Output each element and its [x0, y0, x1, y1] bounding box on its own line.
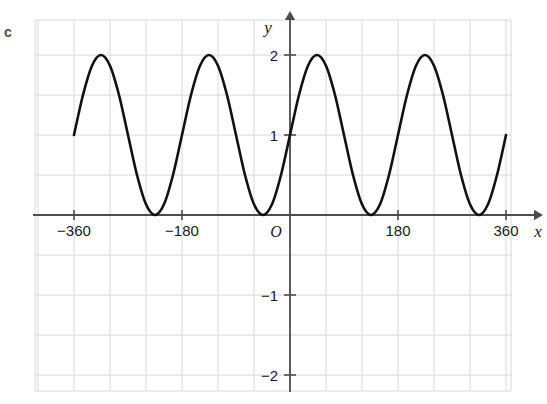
- graph-figure: c −360−18018036021−1−2Oyx: [0, 0, 547, 404]
- x-tick-label: −360: [57, 222, 91, 239]
- y-tick-label: −1: [261, 287, 278, 304]
- y-tick-label: 1: [270, 127, 278, 144]
- x-tick-label: 360: [493, 222, 518, 239]
- y-tick-label: 2: [270, 47, 278, 64]
- origin-label: O: [270, 223, 282, 240]
- trig-graph-svg: −360−18018036021−1−2Oyx: [0, 0, 547, 404]
- x-axis-arrowhead: [534, 210, 543, 220]
- gridlines: [35, 20, 511, 391]
- y-axis-label: y: [262, 18, 272, 37]
- y-tick-label: −2: [261, 367, 278, 384]
- x-tick-label: 180: [385, 222, 410, 239]
- x-axis-label: x: [533, 222, 542, 241]
- x-tick-label: −180: [165, 222, 199, 239]
- y-axis-arrowhead: [285, 11, 295, 20]
